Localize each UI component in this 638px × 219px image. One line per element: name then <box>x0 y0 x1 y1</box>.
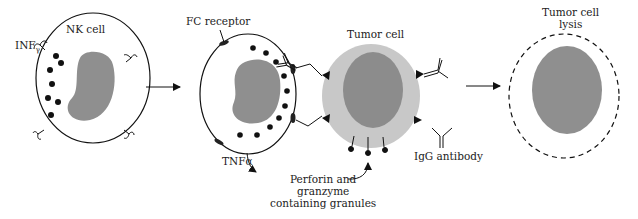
fc-receptor-label: FC receptor <box>186 15 250 27</box>
perforin-line-3: containing granules <box>270 197 376 209</box>
perforin-line-2: granzyme <box>270 185 376 197</box>
lysis-line-2: lysis <box>542 18 599 30</box>
tumor-cell-label: Tumor cell <box>347 28 404 40</box>
perforin-line-1: Perforin and <box>270 173 376 185</box>
fc-receptor-pointer <box>220 30 224 42</box>
inf-text: INF <box>15 39 36 51</box>
tumor-cell <box>322 44 424 179</box>
tumor-cell-lysis-label: Tumor cell lysis <box>542 6 599 30</box>
inf-subscript: γ <box>36 46 40 54</box>
igg-antibody-label: IgG antibody <box>414 150 483 162</box>
tumor-cell-lysis <box>509 34 619 158</box>
igg-antibodies <box>424 58 452 148</box>
nk-cell-label: NK cell <box>66 23 105 35</box>
inf-gamma-label: INFγ <box>15 39 40 56</box>
tnf-alpha-label: TNFα <box>222 155 253 167</box>
nk-cell-engaged <box>200 30 296 172</box>
lysis-line-1: Tumor cell <box>542 6 599 18</box>
perforin-granzyme-label: Perforin and granzyme containing granule… <box>270 173 376 209</box>
